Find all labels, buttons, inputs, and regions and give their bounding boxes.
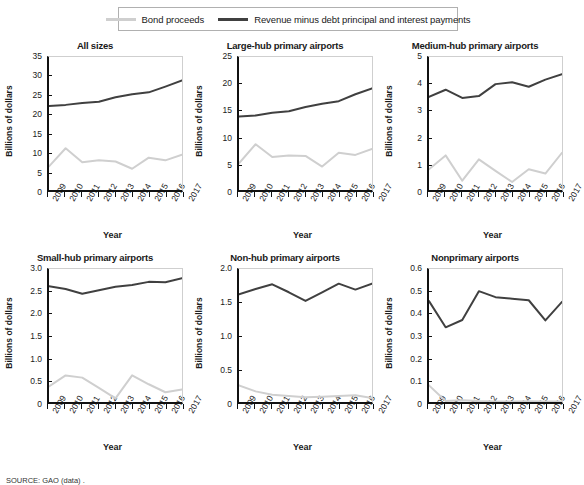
x-tick-mark: [271, 192, 272, 197]
legend-label-revenue_minus_debt: Revenue minus debt principal and interes…: [254, 14, 470, 25]
x-tick-mark: [132, 192, 133, 197]
series-line-bond-proceeds: [239, 385, 372, 398]
x-tick-mark: [64, 404, 65, 409]
y-tick-label: 0.5: [380, 287, 422, 296]
x-axis-label: Year: [230, 230, 375, 240]
x-tick-mark: [373, 192, 374, 197]
x-tick-mark: [149, 404, 150, 409]
y-tick-label: 0.3: [380, 332, 422, 341]
y-tick-label: 5: [380, 52, 422, 61]
y-tick-label: 10: [0, 149, 42, 158]
y-tick-label: 2.0: [0, 309, 42, 318]
x-axis-label: Year: [420, 442, 565, 452]
chart-panel-0: All sizesBillions of dollarsYear05101520…: [0, 38, 190, 253]
x-tick-mark: [356, 192, 357, 197]
series-line-bond-proceeds: [429, 385, 562, 401]
x-axis-label: Year: [40, 230, 185, 240]
chart-title: All sizes: [0, 40, 190, 51]
x-axis-label: Year: [420, 230, 565, 240]
x-tick-mark: [98, 192, 99, 197]
x-tick-mark: [322, 404, 323, 409]
y-tick-label: 5: [190, 161, 232, 170]
x-axis-label: Year: [40, 442, 185, 452]
chart-panel-5: Nonprimary airportsBillions of dollarsYe…: [380, 250, 570, 465]
legend-label-bond_proceeds: Bond proceeds: [142, 14, 205, 25]
x-tick-mark: [546, 192, 547, 197]
x-tick-mark: [288, 192, 289, 197]
x-tick-mark: [183, 404, 184, 409]
chart-title: Nonprimary airports: [380, 252, 570, 263]
x-tick-mark: [64, 192, 65, 197]
series-line-revenue-minus-debt: [239, 284, 372, 301]
y-tick-label: 0.1: [380, 377, 422, 386]
y-tick-label: 10: [190, 134, 232, 143]
x-tick-mark: [546, 404, 547, 409]
plot-area: [237, 56, 373, 192]
y-tick-label: 15: [190, 106, 232, 115]
legend-swatch-bond_proceeds: [106, 18, 136, 21]
series-line-revenue-minus-debt: [49, 81, 182, 106]
legend-swatch-revenue_minus_debt: [218, 18, 248, 21]
y-tick-label: 2: [380, 134, 422, 143]
x-tick-mark: [132, 404, 133, 409]
series-line-revenue-minus-debt: [429, 291, 562, 327]
x-tick-mark: [166, 192, 167, 197]
chart-panel-1: Large-hub primary airportsBillions of do…: [190, 38, 380, 253]
x-tick-mark: [478, 192, 479, 197]
x-tick-mark: [254, 192, 255, 197]
chart-title: Non-hub primary airports: [190, 252, 380, 263]
series-line-revenue-minus-debt: [429, 74, 562, 98]
x-tick-mark: [356, 404, 357, 409]
source-note: SOURCE: GAO (data) .: [6, 476, 85, 485]
y-tick-label: 35: [0, 52, 42, 61]
series-line-revenue-minus-debt: [49, 278, 182, 294]
chart-panel-2: Medium-hub primary airportsBillions of d…: [380, 38, 570, 253]
x-tick-mark: [254, 404, 255, 409]
x-tick-mark: [305, 404, 306, 409]
x-tick-label: 2017: [566, 182, 584, 203]
plot-area: [427, 56, 563, 192]
x-tick-mark: [183, 192, 184, 197]
x-tick-mark: [373, 404, 374, 409]
y-tick-label: 25: [0, 91, 42, 100]
y-tick-label: 1.5: [0, 332, 42, 341]
chart-panel-3: Small-hub primary airportsBillions of do…: [0, 250, 190, 465]
x-tick-mark: [461, 192, 462, 197]
y-tick-label: 25: [190, 52, 232, 61]
y-tick-label: 1.0: [190, 332, 232, 341]
x-axis-label: Year: [230, 442, 375, 452]
y-tick-label: 2.5: [0, 287, 42, 296]
chart-title: Small-hub primary airports: [0, 252, 190, 263]
y-tick-label: 1.0: [0, 355, 42, 364]
x-tick-mark: [47, 192, 48, 197]
series-line-bond-proceeds: [239, 144, 372, 166]
x-tick-mark: [237, 192, 238, 197]
x-tick-mark: [115, 192, 116, 197]
x-tick-mark: [81, 404, 82, 409]
y-tick-label: 0: [380, 400, 422, 409]
y-tick-label: 15: [0, 130, 42, 139]
x-tick-mark: [149, 192, 150, 197]
y-tick-label: 20: [0, 110, 42, 119]
x-tick-mark: [427, 192, 428, 197]
plot-area: [47, 56, 183, 192]
legend-entry-bond_proceeds: Bond proceeds: [106, 14, 205, 25]
x-tick-mark: [512, 404, 513, 409]
y-tick-label: 0: [380, 188, 422, 197]
y-tick-label: 4: [380, 79, 422, 88]
x-tick-mark: [461, 404, 462, 409]
y-tick-label: 0: [190, 400, 232, 409]
y-tick-label: 30: [0, 71, 42, 80]
plot-area: [427, 268, 563, 404]
x-tick-mark: [81, 192, 82, 197]
chart-title: Large-hub primary airports: [190, 40, 380, 51]
x-tick-mark: [339, 404, 340, 409]
y-tick-label: 0.2: [380, 355, 422, 364]
y-tick-label: 5: [0, 169, 42, 178]
x-tick-mark: [237, 404, 238, 409]
x-tick-mark: [444, 404, 445, 409]
x-tick-mark: [529, 404, 530, 409]
y-tick-label: 0.6: [380, 264, 422, 273]
series-line-bond-proceeds: [49, 375, 182, 398]
x-tick-mark: [47, 404, 48, 409]
